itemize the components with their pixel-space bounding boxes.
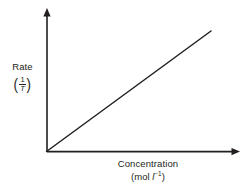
y-units-denominator: T [20, 85, 25, 93]
x-axis-units: (mol l−1) [68, 171, 228, 183]
x-axis-label-text: Concentration [68, 158, 228, 170]
y-axis-label-text: Rate [0, 62, 45, 72]
y-units-numerator: 1 [20, 76, 24, 84]
rate-vs-concentration-graph: Rate ( 1 T ) Concentration (mol l−1) [0, 0, 251, 194]
y-units-close-paren: ) [27, 76, 31, 93]
y-axis-units: ( 1 T ) [13, 76, 32, 94]
y-units-open-paren: ( [14, 76, 18, 93]
x-axis-arrow-icon [232, 148, 241, 155]
x-units-close: ) [162, 171, 165, 182]
y-axis-label: Rate ( 1 T ) [0, 62, 45, 93]
x-axis-label: Concentration (mol l−1) [68, 158, 228, 183]
x-units-open: (mol [131, 171, 152, 182]
y-units-fraction: 1 T [19, 76, 26, 94]
y-axis-arrow-icon [43, 8, 50, 17]
x-units-exponent: −1 [154, 170, 161, 177]
data-line-rate [47, 31, 212, 152]
